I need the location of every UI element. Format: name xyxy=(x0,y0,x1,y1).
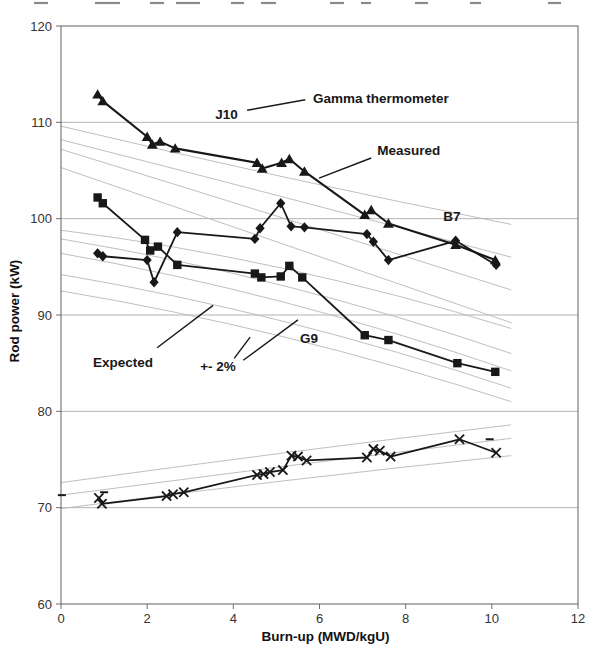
series-marker-G9 xyxy=(285,262,293,270)
rod-power-chart: 60708090100110120024681012Rod power (kW)… xyxy=(0,0,598,657)
annotation-pm2: +- 2% xyxy=(200,359,236,374)
series-marker-G9 xyxy=(141,236,149,244)
xtick-label-6: 6 xyxy=(316,611,323,626)
annotation-b7: B7 xyxy=(443,209,460,224)
annotation-gamma: Gamma thermometer xyxy=(313,91,450,106)
series-marker-J10 xyxy=(366,205,377,214)
series-marker-J10 xyxy=(92,89,103,98)
series-marker-J10 xyxy=(284,154,295,163)
xtick-label-2: 2 xyxy=(144,611,151,626)
ytick-label-60: 60 xyxy=(38,597,52,612)
annotation-leader-pm2-2 xyxy=(243,320,298,360)
ytick-label-110: 110 xyxy=(31,115,52,130)
series-marker-B7 xyxy=(286,221,295,231)
ytick-label-100: 100 xyxy=(30,211,52,226)
series-marker-G9 xyxy=(154,242,162,250)
annotation-leader-pm2-1 xyxy=(234,337,250,358)
figure-page: 60708090100110120024681012Rod power (kW)… xyxy=(0,0,598,657)
ytick-label-70: 70 xyxy=(38,500,52,515)
ytick-label-120: 120 xyxy=(30,19,52,34)
series-marker-G9 xyxy=(491,368,499,376)
series-marker-G9 xyxy=(173,261,181,269)
y-axis-title: Rod power (kW) xyxy=(7,260,22,363)
series-marker-G9 xyxy=(298,273,306,281)
series-marker-G9 xyxy=(277,272,285,280)
series-marker-J10 xyxy=(170,143,181,152)
x-axis-title: Burn-up (MWD/kgU) xyxy=(261,629,389,644)
annotation-j10: J10 xyxy=(215,107,238,122)
annotation-measured: Measured xyxy=(377,143,440,158)
series-marker-G9 xyxy=(384,336,392,344)
series-marker-G9 xyxy=(361,331,369,339)
xtick-label-8: 8 xyxy=(402,611,409,626)
ytick-label-80: 80 xyxy=(38,404,52,419)
xtick-label-12: 12 xyxy=(571,611,585,626)
annotation-leader-measured-1 xyxy=(319,158,371,178)
series-marker-B7 xyxy=(173,227,182,237)
series-marker-B7 xyxy=(143,255,152,265)
series-line-J10 xyxy=(98,94,496,260)
series-marker-J10 xyxy=(155,136,166,145)
expected-curve-9 xyxy=(61,291,511,402)
xtick-label-0: 0 xyxy=(57,611,64,626)
xtick-label-4: 4 xyxy=(230,611,237,626)
series-marker-G9 xyxy=(257,273,265,281)
series-marker-B7 xyxy=(149,277,158,287)
ytick-label-90: 90 xyxy=(38,308,52,323)
series-marker-G9 xyxy=(146,246,154,254)
annotation-expected: Expected xyxy=(93,355,153,370)
series-line-D10 xyxy=(99,439,496,504)
annotation-g9: G9 xyxy=(300,331,318,346)
annotation-leader-gamma-1 xyxy=(247,100,305,111)
expected-curve-6 xyxy=(61,239,511,354)
annotation-leader-expected-1 xyxy=(157,305,213,347)
series-marker-G9 xyxy=(453,359,461,367)
xtick-label-10: 10 xyxy=(485,611,499,626)
series-marker-G9 xyxy=(99,199,107,207)
